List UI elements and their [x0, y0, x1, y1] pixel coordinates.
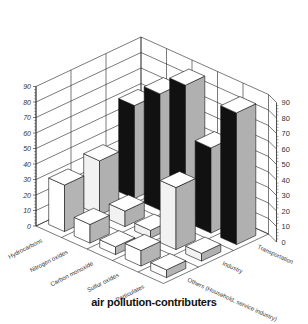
z-tick-label: 50	[282, 160, 290, 169]
z-tick-label: 90	[282, 98, 290, 107]
bar-sulfur-oxides-industry	[160, 171, 195, 249]
z-tick-label: 80	[282, 114, 290, 123]
z-tick-label: 50	[23, 145, 31, 152]
z-tick-label: 60	[282, 145, 290, 154]
chart-title: air pollution-contributers	[0, 296, 308, 308]
z-tick-label: 30	[282, 191, 290, 200]
z-tick-label: 80	[23, 99, 31, 106]
series-label: Industry	[222, 260, 244, 274]
z-tick-label: 30	[23, 176, 31, 183]
category-label: Carbon monoxide	[49, 260, 94, 287]
z-tick-label: 70	[23, 114, 31, 121]
z-tick-label: 60	[23, 130, 31, 137]
z-tick-label: 20	[22, 192, 31, 199]
z-tick-label: 40	[23, 161, 31, 168]
z-tick-label: 20	[282, 207, 290, 216]
z-axis-left: 0102030405060708090	[22, 83, 36, 230]
z-tick-label: 0	[27, 223, 31, 230]
category-label: Sulfur oxides	[86, 272, 120, 293]
series-label: Transportation	[257, 244, 295, 265]
z-tick-label: 90	[23, 83, 31, 90]
bar-particulates-transportation	[221, 97, 256, 245]
z-tick-label: 10	[23, 207, 31, 214]
category-label: Nitrogen oxides	[29, 249, 69, 273]
z-tick-label: 70	[282, 129, 290, 138]
category-label: Hydrocarbons	[7, 237, 43, 259]
3d-bar-chart: 01020304050607080900102030405060708090Hy…	[0, 0, 308, 324]
z-tick-label: 0	[282, 238, 286, 247]
z-axis-right: 0102030405060708090	[269, 95, 290, 247]
z-tick-label: 10	[282, 222, 290, 231]
z-tick-label: 40	[282, 176, 290, 185]
